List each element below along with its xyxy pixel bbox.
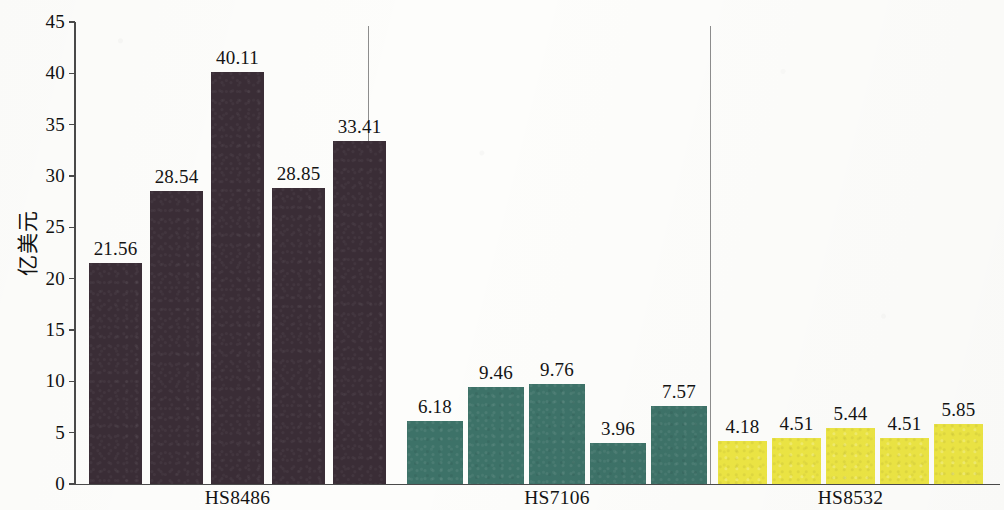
bar-fill — [468, 387, 524, 484]
y-axis-tick — [69, 227, 75, 228]
y-axis-tick — [69, 175, 75, 176]
plot-area: 051015202530354045 亿美元 21.5628.5440.1128… — [0, 0, 1004, 510]
y-axis-tick — [69, 124, 75, 125]
bar-value-label: 7.57 — [662, 382, 696, 401]
y-axis-tick-label: 35 — [31, 115, 65, 134]
y-axis-tick-label: 0 — [31, 474, 65, 493]
bar-fill — [272, 188, 325, 484]
bar: 33.41 — [333, 141, 386, 484]
bar-fill — [150, 191, 203, 484]
bar: 5.44 — [826, 428, 875, 484]
bar-value-label: 3.96 — [601, 419, 635, 438]
bar-fill — [880, 438, 929, 484]
y-axis-tick-label-wrap: 15 — [20, 320, 65, 339]
bar: 4.51 — [880, 438, 929, 484]
bar: 9.46 — [468, 387, 524, 484]
y-axis-tick — [69, 432, 75, 433]
y-axis-tick-label: 5 — [31, 423, 65, 442]
bar-value-label: 21.56 — [94, 239, 138, 258]
y-axis-tick-label-wrap: 10 — [20, 371, 65, 390]
bar: 3.96 — [590, 443, 646, 484]
bar-fill — [826, 428, 875, 484]
bar: 7.57 — [651, 406, 707, 484]
y-axis-tick — [69, 21, 75, 22]
bar-fill — [934, 424, 983, 484]
bar: 21.56 — [89, 263, 142, 484]
bar-value-label: 4.51 — [887, 414, 921, 433]
y-axis-tick-label-wrap: 0 — [20, 474, 65, 493]
bar-value-label: 28.54 — [155, 167, 199, 186]
group-separator — [710, 26, 711, 484]
y-axis-tick-label: 30 — [31, 166, 65, 185]
bar-fill — [89, 263, 142, 484]
y-axis-tick — [69, 381, 75, 382]
x-axis-group-label: HS7106 — [407, 488, 707, 508]
bar: 4.18 — [718, 441, 767, 484]
bar: 4.51 — [772, 438, 821, 484]
bar-value-label: 40.11 — [216, 48, 259, 67]
bar-fill — [407, 421, 463, 484]
y-axis-tick-label-wrap: 35 — [20, 115, 65, 134]
bar: 40.11 — [211, 72, 264, 484]
bar: 28.54 — [150, 191, 203, 484]
y-axis-tick-label-wrap: 5 — [20, 423, 65, 442]
bar-value-label: 28.85 — [277, 164, 321, 183]
bar-fill — [718, 441, 767, 484]
x-axis-group-label: HS8532 — [718, 488, 983, 508]
y-axis-tick-label: 40 — [31, 63, 65, 82]
y-axis-line — [74, 22, 76, 485]
bar-value-label: 4.51 — [779, 414, 813, 433]
bar-value-label: 4.18 — [725, 417, 759, 436]
bar-chart: 051015202530354045 亿美元 21.5628.5440.1128… — [0, 0, 1004, 510]
bar-fill — [211, 72, 264, 484]
y-axis-tick — [69, 329, 75, 330]
y-axis-tick — [69, 483, 75, 484]
bar-value-label: 33.41 — [338, 117, 382, 136]
bar-value-label: 9.46 — [479, 363, 513, 382]
bar: 5.85 — [934, 424, 983, 484]
y-axis-tick — [69, 278, 75, 279]
bar-value-label: 5.85 — [941, 400, 975, 419]
y-axis-tick-label: 10 — [31, 371, 65, 390]
bar: 6.18 — [407, 421, 463, 484]
bar-value-label: 9.76 — [540, 360, 574, 379]
bar-value-label: 5.44 — [833, 404, 867, 423]
y-axis-title: 亿美元 — [18, 195, 39, 291]
bar-fill — [333, 141, 386, 484]
y-axis-tick-label-wrap: 45 — [20, 12, 65, 31]
y-axis-tick-label-wrap: 30 — [20, 166, 65, 185]
bar-fill — [651, 406, 707, 484]
bar-fill — [772, 438, 821, 484]
bar-fill — [529, 384, 585, 484]
bar: 28.85 — [272, 188, 325, 484]
bar: 9.76 — [529, 384, 585, 484]
bar-value-label: 6.18 — [418, 397, 452, 416]
y-axis-tick-label: 45 — [31, 12, 65, 31]
y-axis-tick-label-wrap: 40 — [20, 63, 65, 82]
bar-fill — [590, 443, 646, 484]
y-axis-tick — [69, 73, 75, 74]
x-axis-group-label: HS8486 — [89, 488, 386, 508]
y-axis-tick-label: 15 — [31, 320, 65, 339]
